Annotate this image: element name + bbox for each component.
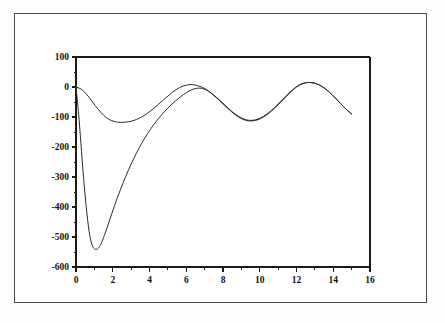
curve-transient-response bbox=[76, 82, 352, 249]
x-tick-label: 10 bbox=[255, 275, 265, 285]
y-tick-label: -500 bbox=[0, 232, 69, 242]
x-tick-label: 6 bbox=[184, 275, 189, 285]
x-tick-label: 2 bbox=[110, 275, 115, 285]
y-tick-label: -300 bbox=[0, 172, 69, 182]
x-tick-label: 12 bbox=[292, 275, 302, 285]
x-tick-label: 16 bbox=[365, 275, 375, 285]
curve-shallow-response bbox=[76, 82, 352, 122]
data-curves bbox=[76, 82, 352, 249]
x-tick-label: 0 bbox=[74, 275, 79, 285]
y-tick-label: -100 bbox=[0, 112, 69, 122]
y-tick-label: -200 bbox=[0, 142, 69, 152]
figure-canvas: 1000-100-200-300-400-500-600 02468101214… bbox=[0, 0, 445, 323]
x-tick-label: 4 bbox=[147, 275, 152, 285]
y-tick-label: 0 bbox=[0, 82, 69, 92]
y-tick-label: -400 bbox=[0, 202, 69, 212]
x-tick-label: 8 bbox=[221, 275, 226, 285]
y-tick-label: 100 bbox=[0, 52, 69, 62]
x-tick-label: 14 bbox=[329, 275, 339, 285]
y-tick-label: -600 bbox=[0, 262, 69, 272]
axis-spines bbox=[76, 57, 370, 267]
